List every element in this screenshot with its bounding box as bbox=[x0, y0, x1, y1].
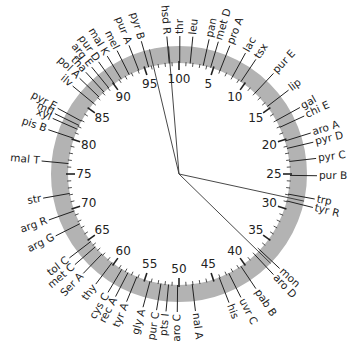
gene-label: hsd R bbox=[159, 5, 174, 35]
minor-tick bbox=[97, 97, 100, 100]
minor-tick bbox=[248, 257, 251, 260]
scale-label: 65 bbox=[95, 223, 110, 237]
minor-tick bbox=[108, 88, 111, 91]
genetic-map: hsd Rthrleupanmet Dpro Alactsxpur Elipga… bbox=[0, 0, 356, 350]
center-line bbox=[179, 174, 304, 201]
gene-label: gly A bbox=[129, 307, 148, 336]
major-tick bbox=[240, 258, 245, 265]
major-tick bbox=[113, 258, 118, 265]
scale-label: 55 bbox=[142, 257, 157, 271]
major-tick bbox=[240, 83, 245, 90]
minor-tick bbox=[119, 79, 121, 82]
scale-label: 40 bbox=[227, 244, 242, 258]
minor-tick bbox=[262, 243, 265, 246]
minor-tick bbox=[102, 92, 105, 95]
major-tick bbox=[113, 83, 118, 90]
scale-label: 60 bbox=[116, 244, 131, 258]
minor-tick bbox=[270, 114, 273, 116]
major-tick bbox=[263, 235, 270, 240]
scale-label: 50 bbox=[171, 262, 186, 276]
scale-label: 80 bbox=[81, 138, 96, 152]
gene-label: leu bbox=[186, 18, 200, 35]
gene-label: pur B bbox=[319, 169, 347, 181]
minor-tick bbox=[84, 232, 87, 234]
minor-tick bbox=[270, 232, 273, 234]
gene-label: nal A bbox=[191, 312, 206, 341]
minor-tick bbox=[286, 188, 290, 189]
minor-tick bbox=[68, 188, 72, 189]
scale-label: 35 bbox=[248, 223, 263, 237]
scale-label: 45 bbox=[201, 257, 216, 271]
minor-tick bbox=[68, 160, 72, 161]
center-line bbox=[179, 174, 271, 263]
gene-label: arg R bbox=[18, 214, 48, 235]
minor-tick bbox=[102, 253, 105, 256]
scale-label: 70 bbox=[81, 196, 96, 210]
minor-tick bbox=[119, 265, 121, 268]
scale-label: 75 bbox=[76, 167, 91, 181]
minor-tick bbox=[97, 248, 100, 251]
gene-label: aro C bbox=[170, 314, 182, 342]
scale-label: 10 bbox=[227, 90, 242, 104]
gene-label: tyr R bbox=[314, 201, 341, 219]
minor-tick bbox=[286, 160, 290, 161]
gene-label: arg G bbox=[25, 231, 56, 255]
minor-tick bbox=[262, 103, 265, 106]
minor-tick bbox=[237, 79, 239, 82]
minor-tick bbox=[258, 97, 261, 100]
scale-label: 25 bbox=[266, 167, 281, 181]
gene-label: pur E bbox=[270, 47, 298, 75]
minor-tick bbox=[165, 63, 166, 67]
minor-tick bbox=[193, 63, 194, 67]
minor-tick bbox=[93, 243, 96, 246]
minor-tick bbox=[84, 114, 87, 116]
gene-label: str bbox=[26, 191, 42, 205]
minor-tick bbox=[165, 281, 166, 285]
minor-tick bbox=[237, 265, 239, 268]
gene-label: thr bbox=[173, 18, 185, 34]
scale-label: 95 bbox=[142, 77, 157, 91]
scale-label: 90 bbox=[116, 90, 131, 104]
scale-label: 100 bbox=[168, 72, 191, 86]
gene-label: pyr C bbox=[317, 148, 346, 163]
center-line bbox=[150, 49, 179, 174]
scale-label: 30 bbox=[262, 196, 277, 210]
center-line bbox=[169, 46, 179, 174]
scale-label: 15 bbox=[248, 111, 263, 125]
minor-tick bbox=[248, 88, 251, 91]
minor-tick bbox=[108, 257, 111, 260]
scale-label: 85 bbox=[95, 111, 110, 125]
gene-label: mal T bbox=[10, 151, 41, 166]
major-tick bbox=[263, 108, 270, 113]
scale-label: 5 bbox=[205, 77, 213, 91]
scale-label: 20 bbox=[262, 138, 277, 152]
